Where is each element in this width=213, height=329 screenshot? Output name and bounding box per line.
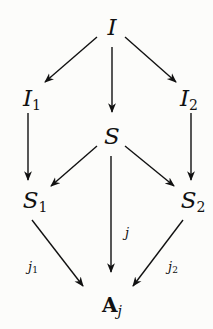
node-Aj: Aj [102,295,122,318]
arrow-S2-Aj [133,220,183,286]
node-S1: S1 [23,189,48,214]
edge-label-j: j [125,226,129,239]
edge-label-j1-sub: 1 [32,265,38,275]
node-I: I [107,16,116,39]
edge-label-j2: j2 [168,260,178,275]
node-I1-sub: 1 [32,97,41,113]
node-S2-base: S [181,187,197,213]
node-I2-base: I [180,85,189,111]
arrows-layer [0,0,213,329]
node-S2-sub: 2 [196,199,205,215]
arrow-I-I1 [45,37,97,82]
node-S1-sub: 1 [38,199,47,215]
arrow-S-S2 [125,146,174,186]
node-S: S [104,125,120,148]
node-I1: I1 [23,87,41,112]
node-I-base: I [107,14,116,40]
diagram-canvas: I I1 I2 S S1 S2 Aj j j1 j2 [0,0,213,329]
arrow-S-S1 [51,146,97,186]
edge-label-j1: j1 [28,260,38,275]
node-Aj-sub: j [118,303,122,319]
edge-label-j-base: j [125,225,129,240]
node-S-base: S [104,123,120,149]
node-I2-sub: 2 [189,97,198,113]
node-S2: S2 [181,189,206,214]
node-Aj-base: A [102,293,118,317]
arrow-S1-Aj [32,220,83,286]
arrow-I-I2 [125,37,176,82]
node-I1-base: I [23,85,32,111]
node-S1-base: S [23,187,39,213]
node-I2: I2 [180,87,198,112]
edge-label-j2-sub: 2 [172,265,178,275]
